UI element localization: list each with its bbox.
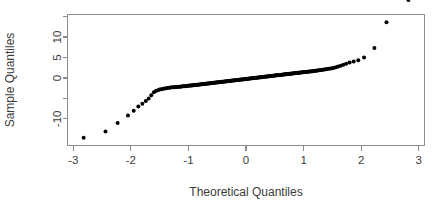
x-tick-label: -2 bbox=[126, 154, 136, 166]
qq-plot-figure: -3-2-10123 1050-10 Theoretical Quantiles… bbox=[0, 0, 441, 205]
data-point bbox=[344, 62, 348, 66]
plot-canvas: -3-2-10123 1050-10 Theoretical Quantiles… bbox=[0, 0, 441, 205]
y-tick-label: -10 bbox=[51, 111, 63, 128]
data-point bbox=[82, 136, 86, 140]
data-point bbox=[136, 105, 140, 109]
x-tick-label: 3 bbox=[416, 154, 422, 166]
data-point bbox=[126, 114, 130, 118]
x-tick-label: 0 bbox=[243, 154, 249, 166]
y-axis-ticks bbox=[63, 17, 68, 119]
data-point bbox=[372, 46, 376, 50]
y-axis-tick-labels: 1050-10 bbox=[51, 31, 63, 128]
x-axis-title: Theoretical Quantiles bbox=[189, 185, 302, 199]
data-point bbox=[104, 130, 108, 134]
x-tick-label: 1 bbox=[300, 154, 306, 166]
data-point bbox=[406, 0, 410, 2]
y-tick-label: 5 bbox=[51, 54, 63, 60]
y-tick-label: 0 bbox=[51, 75, 63, 81]
data-point bbox=[147, 96, 151, 100]
data-point bbox=[140, 102, 144, 106]
data-point bbox=[362, 55, 366, 59]
data-point bbox=[356, 58, 360, 62]
y-axis-title: Sample Quantiles bbox=[3, 33, 17, 128]
x-axis-tick-labels: -3-2-10123 bbox=[68, 154, 422, 166]
y-tick-label: 10 bbox=[51, 31, 63, 44]
x-tick-label: -1 bbox=[183, 154, 193, 166]
data-point bbox=[132, 109, 136, 113]
x-tick-label: 2 bbox=[358, 154, 364, 166]
x-tick-label: -3 bbox=[68, 154, 78, 166]
data-point bbox=[116, 121, 120, 125]
scatter-series-sample-quantiles bbox=[82, 0, 411, 140]
x-axis-ticks bbox=[73, 146, 418, 151]
data-point bbox=[385, 20, 389, 24]
data-point bbox=[348, 60, 352, 64]
data-point bbox=[352, 60, 356, 64]
